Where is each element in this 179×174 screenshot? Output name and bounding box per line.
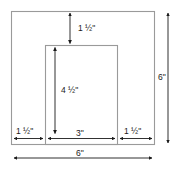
overall-width-label: 6" bbox=[76, 148, 84, 158]
right-margin-label: 1 ½" bbox=[124, 126, 141, 136]
diagram-canvas: 1 ½" 4 ½" 1 ½" 3" 1 ½" 6" 6" bbox=[0, 0, 179, 174]
left-margin-label: 1 ½" bbox=[16, 126, 33, 136]
dimension-diagram: 1 ½" 4 ½" 1 ½" 3" 1 ½" 6" 6" bbox=[0, 0, 179, 174]
inner-height-label: 4 ½" bbox=[61, 85, 78, 95]
inner-width-label: 3" bbox=[76, 128, 84, 138]
top-margin-label: 1 ½" bbox=[78, 23, 95, 33]
overall-height-label: 6" bbox=[158, 72, 166, 82]
